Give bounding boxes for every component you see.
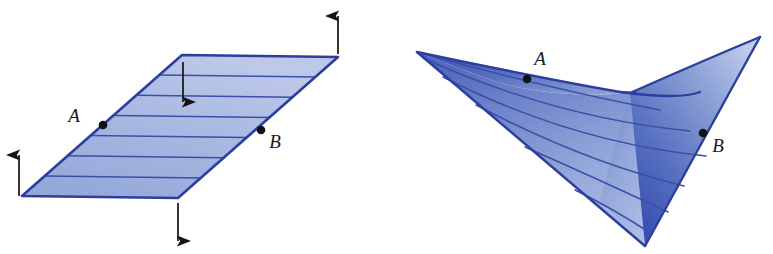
- twisted-surface-fold-crease: [620, 92, 636, 93]
- figure-stage: A B: [0, 0, 773, 254]
- point-a-marker: [99, 121, 108, 130]
- point-b-label: B: [269, 131, 281, 152]
- point-a-marker: [523, 75, 532, 84]
- point-a-label: A: [532, 48, 546, 69]
- point-b-marker: [699, 129, 708, 138]
- point-a-label: A: [66, 105, 80, 126]
- twisted-plane-figure: A B: [0, 0, 773, 254]
- point-b-label: B: [712, 135, 724, 156]
- point-b-marker: [257, 126, 266, 135]
